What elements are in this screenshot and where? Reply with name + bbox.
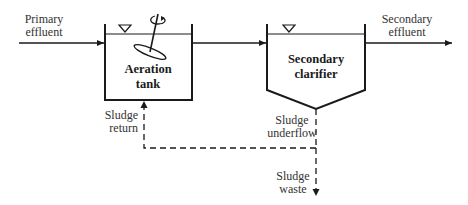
water-level-icon (283, 25, 295, 32)
aeration-tank-label-1: Aeration (124, 62, 171, 76)
aerator-icon (133, 14, 168, 62)
water-level-icon (119, 25, 131, 32)
aeration-tank: Aeration tank (105, 14, 192, 100)
sludge-underflow-label-2: underflow (267, 126, 317, 140)
secondary-effluent-flow: Secondary effluent (365, 12, 452, 43)
clarifier-label-1: Secondary (288, 52, 345, 66)
clarifier-label-2: clarifier (294, 67, 337, 81)
secondary-effluent-label-2: effluent (388, 25, 426, 39)
primary-effluent-flow: Primary effluent (19, 12, 104, 43)
primary-effluent-label-2: effluent (25, 25, 63, 39)
aeration-tank-label-2: tank (136, 77, 160, 91)
sludge-return-arrowhead (141, 101, 148, 108)
sludge-waste-arrowhead (313, 189, 320, 196)
secondary-effluent-label-1: Secondary (382, 12, 433, 26)
sludge-underflow-label-1: Sludge (275, 113, 308, 127)
sludge-return-label-2: return (109, 121, 138, 135)
secondary-clarifier: Secondary clarifier (267, 24, 365, 109)
sludge-waste-label-1: Sludge (276, 169, 309, 183)
activated-sludge-diagram: Primary effluent Aeration tank Secondary… (0, 0, 468, 205)
primary-effluent-label-1: Primary (25, 12, 64, 26)
sludge-return-label-1: Sludge (105, 108, 138, 122)
sludge-waste-label-2: waste (279, 182, 306, 196)
